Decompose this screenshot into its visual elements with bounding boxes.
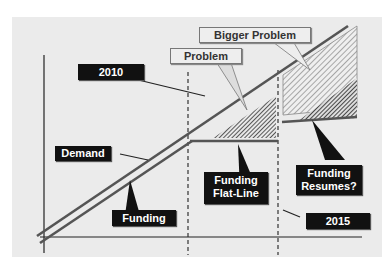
- label-2010: 2010: [78, 64, 144, 80]
- label-funding-resumes-2: Resumes?: [296, 180, 362, 193]
- label-bigger-problem: Bigger Problem: [199, 27, 311, 43]
- label-funding-flat-line-2: Flat-Line: [204, 187, 268, 200]
- label-funding-flat-line-1: Funding: [204, 174, 268, 187]
- diagram-graphics: [0, 0, 392, 271]
- label-2015: 2015: [306, 213, 370, 229]
- label-funding-flat-line: Funding Flat-Line: [204, 172, 268, 204]
- label-problem: Problem: [170, 48, 242, 64]
- diagram: 2010 Demand Funding Problem Bigger Probl…: [0, 0, 392, 271]
- label-funding: Funding: [112, 210, 176, 226]
- label-funding-resumes-1: Funding: [296, 167, 362, 180]
- label-demand: Demand: [55, 146, 111, 161]
- label-funding-resumes: Funding Resumes?: [296, 165, 362, 195]
